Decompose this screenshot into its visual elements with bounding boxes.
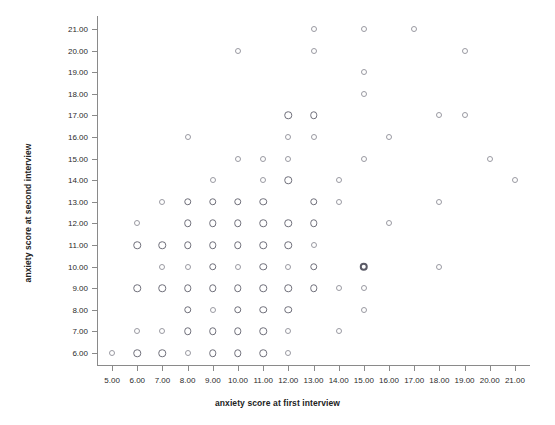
x-tick-label: 14.00 — [329, 376, 349, 385]
data-point — [159, 284, 167, 292]
data-point — [260, 156, 266, 162]
x-tick-mark: 21.00 — [515, 366, 516, 371]
data-point — [311, 134, 317, 140]
y-tick-label: 11.00 — [69, 241, 88, 250]
data-point — [285, 241, 293, 249]
data-point — [235, 48, 241, 54]
data-point — [209, 220, 217, 228]
data-point — [184, 198, 192, 206]
data-point — [436, 199, 442, 205]
data-point — [285, 284, 293, 292]
y-axis-label: anxiety score at second interview — [23, 143, 33, 282]
y-tick-label: 20.00 — [68, 46, 88, 55]
data-point — [361, 307, 367, 313]
x-tick-mark: 20.00 — [490, 366, 491, 371]
x-tick-label: 12.00 — [278, 376, 298, 385]
x-axis-label: anxiety score at first interview — [0, 398, 555, 408]
data-point — [310, 263, 318, 271]
data-point — [235, 156, 241, 162]
data-point — [336, 177, 342, 183]
data-point — [259, 198, 267, 206]
y-tick-mark: 19.00 — [92, 72, 97, 73]
x-tick-label: 19.00 — [455, 376, 475, 385]
data-point — [310, 220, 318, 228]
data-point — [259, 328, 267, 336]
y-tick-mark: 13.00 — [92, 202, 97, 203]
data-point — [360, 262, 369, 271]
data-point — [209, 284, 217, 292]
data-point — [285, 176, 293, 184]
y-tick-label: 15.00 — [68, 154, 88, 163]
data-point — [285, 328, 291, 334]
y-tick-mark: 18.00 — [92, 94, 97, 95]
data-point — [361, 69, 367, 75]
data-point — [134, 241, 142, 249]
data-point — [209, 241, 217, 249]
scatter-plot-figure: anxiety score at second interview 6.007.… — [0, 0, 555, 425]
y-tick-label: 12.00 — [68, 219, 88, 228]
data-point — [285, 264, 291, 270]
data-point — [361, 156, 367, 162]
data-point — [386, 220, 392, 226]
x-tick-mark: 15.00 — [364, 366, 365, 371]
data-point — [209, 349, 217, 357]
y-tick-mark: 20.00 — [92, 51, 97, 52]
data-point — [209, 198, 217, 206]
y-tick-mark: 9.00 — [92, 288, 97, 289]
data-point — [512, 177, 518, 183]
data-point — [209, 328, 217, 336]
data-point — [310, 198, 318, 206]
data-point — [159, 199, 165, 205]
data-point — [336, 199, 342, 205]
y-tick-label: 18.00 — [68, 89, 88, 98]
data-point — [259, 241, 267, 249]
x-tick-label: 7.00 — [155, 376, 171, 385]
data-point — [411, 26, 417, 32]
data-point — [159, 241, 167, 249]
x-tick-label: 15.00 — [354, 376, 374, 385]
data-point — [184, 306, 192, 314]
data-point — [209, 263, 217, 271]
y-tick-label: 7.00 — [72, 327, 88, 336]
y-tick-mark: 15.00 — [92, 159, 97, 160]
plot-area: 6.007.008.009.0010.0011.0012.0013.0014.0… — [97, 16, 530, 366]
data-point — [436, 264, 442, 270]
data-point — [184, 241, 192, 249]
data-point — [210, 177, 216, 183]
x-tick-mark: 12.00 — [288, 366, 289, 371]
data-point — [234, 328, 242, 336]
x-tick-mark: 9.00 — [213, 366, 214, 371]
data-point — [311, 26, 317, 32]
x-tick-mark: 5.00 — [112, 366, 113, 371]
data-point — [462, 112, 468, 118]
x-tick-mark: 17.00 — [414, 366, 415, 371]
data-point — [184, 220, 192, 228]
y-tick-mark: 17.00 — [92, 115, 97, 116]
y-tick-mark: 8.00 — [92, 310, 97, 311]
data-point — [235, 264, 241, 270]
data-point — [436, 112, 442, 118]
x-tick-mark: 13.00 — [314, 366, 315, 371]
y-tick-label: 10.00 — [68, 262, 88, 271]
x-tick-mark: 8.00 — [188, 366, 189, 371]
y-tick-label: 14.00 — [68, 176, 88, 185]
data-point — [184, 328, 192, 336]
x-tick-label: 20.00 — [480, 376, 500, 385]
x-tick-label: 5.00 — [104, 376, 120, 385]
data-point — [234, 241, 242, 249]
y-tick-label: 9.00 — [72, 284, 88, 293]
data-point — [134, 220, 140, 226]
data-point — [361, 285, 367, 291]
data-point — [259, 349, 267, 357]
x-tick-mark: 6.00 — [137, 366, 138, 371]
data-point — [285, 134, 291, 140]
data-point — [285, 112, 293, 120]
data-point — [185, 134, 191, 140]
data-point — [259, 263, 267, 271]
data-point — [234, 349, 242, 357]
data-point — [234, 220, 242, 228]
data-point — [487, 156, 493, 162]
y-tick-label: 6.00 — [72, 349, 88, 358]
data-point — [234, 306, 242, 314]
y-tick-label: 13.00 — [68, 197, 88, 206]
